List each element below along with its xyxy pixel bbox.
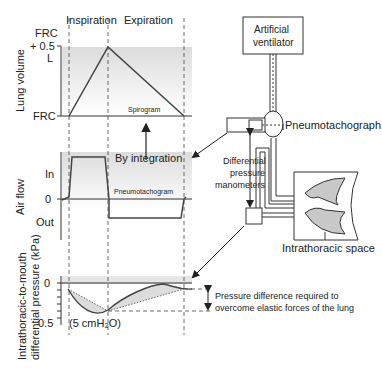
pneumotachogram-label: Pneumotachogram xyxy=(114,188,173,196)
intrathoracic-label: Intrathoracic space xyxy=(282,242,375,254)
pressure-axis-label-1: Intrathoracic-to-mouth xyxy=(16,252,28,360)
tick-zero-pressure: 0 xyxy=(44,277,50,289)
tick-in: In xyxy=(45,168,54,180)
phase-expiration: Expiration xyxy=(124,14,173,26)
ventilator-label-1: Artificial xyxy=(254,24,289,35)
pneumotachograph-label: Pneumotachograph xyxy=(285,119,381,131)
air-flow-axis-label: Air flow xyxy=(14,179,26,215)
tick-zero-flow: 0 xyxy=(45,193,51,205)
pneumotachograph-arrow xyxy=(193,133,227,157)
annotation-line-1: Pressure difference required to xyxy=(215,291,338,301)
tick-out: Out xyxy=(36,216,54,228)
integration-label: By integration xyxy=(115,152,182,164)
ventilator-box xyxy=(243,17,303,54)
manometers-label-3: manometers xyxy=(215,180,266,190)
phase-inspiration: Inspiration xyxy=(66,14,117,26)
lung-volume-axis-label: Lung volume xyxy=(14,49,26,112)
tick-frc-bottom: FRC xyxy=(33,110,56,122)
manometer-box xyxy=(246,208,262,224)
tick-l: L xyxy=(47,52,53,64)
respiration-diagram: Inspiration Expiration FRC + 0.5 L FRC S… xyxy=(0,0,382,379)
ventilator-label-2: ventilator xyxy=(253,37,294,48)
manometers-label-1: Differential xyxy=(223,156,266,166)
pressure-axis-label-2: differential pressure (kPa) xyxy=(29,234,41,360)
annotation-line-2: overcome elastic forces of the lung xyxy=(215,303,354,313)
tick-plus-half: + 0.5 xyxy=(30,40,55,52)
spirogram-label: Spirogram xyxy=(128,106,160,114)
tick-frc-top: FRC xyxy=(35,27,58,39)
manometer-arrow xyxy=(193,226,244,277)
unit-note: (5 cmH₂O) xyxy=(69,317,121,329)
